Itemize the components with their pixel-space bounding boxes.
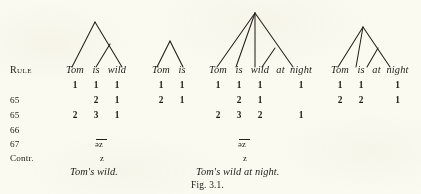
tree-col-3 xyxy=(217,13,293,67)
digit: 1 xyxy=(327,80,353,90)
word-is: is xyxy=(174,64,190,75)
stress-row-col-1-initial: 111 xyxy=(62,80,130,90)
word-at: at xyxy=(369,64,384,75)
phrase-col-3: Tomiswildatnight xyxy=(205,64,314,75)
digit: 3 xyxy=(231,110,247,120)
digit: 1 xyxy=(247,95,273,105)
phrase-col-4: Tomisatnight xyxy=(327,64,411,75)
word-night: night xyxy=(384,64,411,75)
digit: 1 xyxy=(104,110,130,120)
digit: 2 xyxy=(205,110,231,120)
digit: 3 xyxy=(88,110,104,120)
word-night: night xyxy=(288,64,314,75)
word-is: is xyxy=(231,64,247,75)
digit: 1 xyxy=(148,80,174,90)
stress-row-col-4-initial: 111 xyxy=(327,80,411,90)
word-at: at xyxy=(273,64,288,75)
digit: 1 xyxy=(205,80,231,90)
word-is: is xyxy=(353,64,369,75)
contraction-phoneme-col-1: z xyxy=(100,153,104,163)
stress-row-col-3-rule65a: 21 xyxy=(205,95,314,105)
digit: 1 xyxy=(353,80,369,90)
digit: 1 xyxy=(384,95,411,105)
stress-row-col-1-rule65b: 231 xyxy=(62,110,130,120)
row-label-65-first: 65 xyxy=(10,95,20,105)
stress-row-col-3-initial: 1111 xyxy=(205,80,314,90)
digit: 2 xyxy=(88,95,104,105)
stress-row-col-3-rule65b: 2321 xyxy=(205,110,314,120)
digit: 1 xyxy=(384,80,411,90)
digit: 1 xyxy=(104,95,130,105)
word-wild: wild xyxy=(247,64,273,75)
digit: 1 xyxy=(62,80,88,90)
stress-row-col-2-initial: 11 xyxy=(148,80,190,90)
stress-row-col-1-rule65a: 21 xyxy=(62,95,130,105)
digit: 1 xyxy=(88,80,104,90)
row-label-contr: Contr. xyxy=(10,153,34,163)
digit: 2 xyxy=(247,110,273,120)
word-tom: Tom xyxy=(148,64,174,75)
result-col-1: Tom's wild. xyxy=(70,166,118,177)
tree-col-4 xyxy=(338,27,390,67)
word-tom: Tom xyxy=(327,64,353,75)
digit: 1 xyxy=(288,80,314,90)
digit: 1 xyxy=(247,80,273,90)
digit: 1 xyxy=(104,80,130,90)
digit: 1 xyxy=(174,95,190,105)
result-col-3: Tom's wild at night. xyxy=(196,166,280,177)
figure-caption: Fig. 3.1. xyxy=(191,180,224,190)
word-wild: wild xyxy=(104,64,130,75)
phrase-col-1: Tomiswild xyxy=(62,64,130,75)
rule67-phoneme-col-1: əz xyxy=(95,139,103,149)
digit: 2 xyxy=(231,95,247,105)
word-tom: Tom xyxy=(62,64,88,75)
digit: 2 xyxy=(62,110,88,120)
digit: 1 xyxy=(174,80,190,90)
digit: 2 xyxy=(353,95,369,105)
figure-3-1: Rule 65 65 66 67 Contr. Tomiswild 111 21… xyxy=(0,0,421,194)
word-tom: Tom xyxy=(205,64,231,75)
digit: 1 xyxy=(288,110,314,120)
stress-row-col-4-rule65a: 221 xyxy=(327,95,411,105)
row-label-65-second: 65 xyxy=(10,110,20,120)
tree-col-1 xyxy=(72,22,122,67)
contraction-phoneme-col-3: z xyxy=(243,153,247,163)
row-label-rule-header: Rule xyxy=(10,64,32,75)
stress-row-col-2-rule65a: 21 xyxy=(148,95,190,105)
digit: 1 xyxy=(231,80,247,90)
rule67-phoneme-col-3: əz xyxy=(238,139,246,149)
row-label-66: 66 xyxy=(10,125,20,135)
digit: 2 xyxy=(327,95,353,105)
word-is: is xyxy=(88,64,104,75)
phrase-col-2: Tomis xyxy=(148,64,190,75)
row-label-67: 67 xyxy=(10,139,20,149)
digit: 2 xyxy=(148,95,174,105)
